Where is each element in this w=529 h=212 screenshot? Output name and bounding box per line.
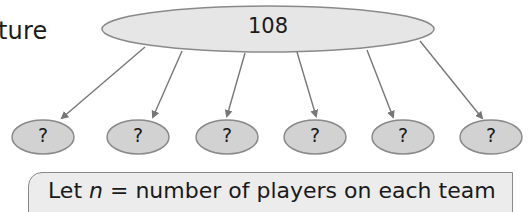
arrow-4: [297, 52, 316, 116]
definition-prefix: Let: [48, 178, 89, 203]
arrow-6: [420, 41, 482, 118]
arrow-5: [367, 50, 393, 117]
arrow-1: [62, 47, 145, 118]
arrow-3: [227, 53, 245, 116]
child-node-value: ?: [195, 124, 259, 146]
child-node-value: ?: [11, 124, 75, 146]
definition-suffix: = number of players on each team: [103, 178, 496, 203]
child-node-value: ?: [283, 124, 347, 146]
child-node-value: ?: [106, 124, 170, 146]
arrow-2: [153, 51, 182, 117]
child-node-value: ?: [371, 124, 435, 146]
root-node-value: 108: [218, 14, 318, 38]
child-node-value: ?: [459, 124, 523, 146]
definition-variable: n: [89, 178, 103, 203]
definition-text: Let n = number of players on each team: [48, 178, 496, 203]
